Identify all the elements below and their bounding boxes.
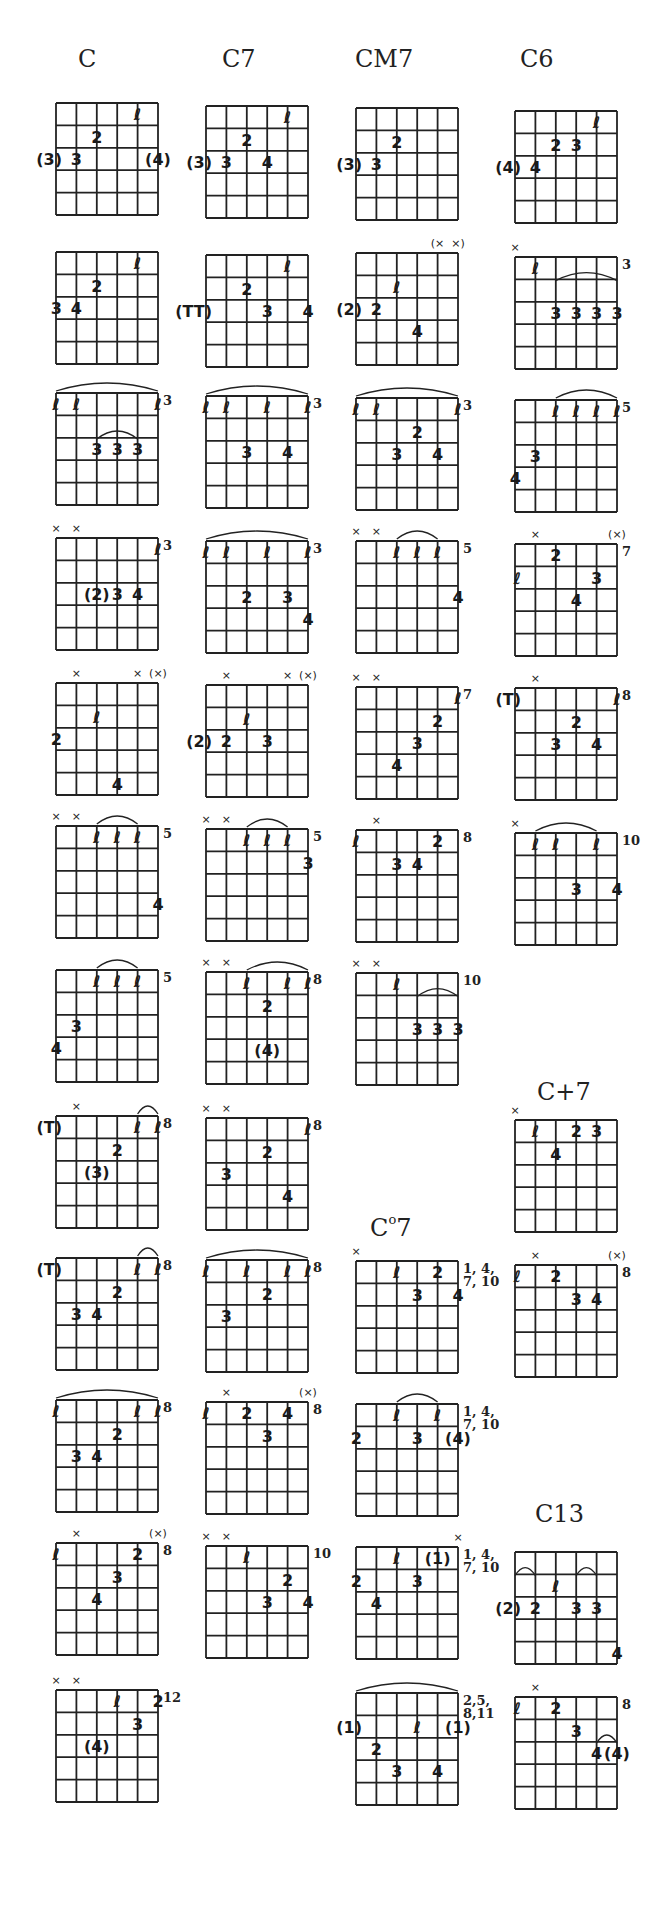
finger-1-icon: ℓ	[51, 1545, 60, 1564]
chord-diagram-c7: ×ℓ234	[515, 1120, 619, 1232]
chord-diagram-cm7: ×ℓ2348	[356, 830, 460, 942]
finger-label: (1)	[336, 1718, 362, 1737]
optional-mute-icon: (×)	[149, 1527, 167, 1540]
finger-label: 4	[132, 585, 143, 604]
fretboard-grid: ××(×)ℓ24	[56, 683, 158, 795]
finger-1-icon: ℓ	[133, 254, 142, 273]
fret-position-label: 10	[622, 833, 640, 848]
fret-position-label: 8	[622, 688, 631, 703]
mute-icon: ×	[133, 667, 142, 680]
barre-arc	[535, 823, 596, 831]
finger-label: 3	[112, 440, 123, 459]
finger-label: 3	[571, 880, 582, 899]
finger-label: 4	[262, 153, 273, 172]
finger-1-icon: ℓ	[592, 113, 601, 132]
finger-1-icon: ℓ	[512, 569, 521, 588]
finger-label: 3	[221, 153, 232, 172]
finger-label: 3	[571, 1599, 582, 1618]
finger-label: 3	[391, 445, 402, 464]
finger-label: 2	[241, 280, 252, 299]
finger-1-icon: ℓ	[531, 835, 540, 854]
finger-1-icon: ℓ	[351, 832, 360, 851]
finger-label: 2	[550, 546, 561, 565]
finger-label: 2	[262, 1285, 273, 1304]
finger-label: 4	[302, 610, 313, 629]
mute-icon: ×	[531, 528, 540, 541]
fret-position-label: 7	[463, 687, 472, 702]
barre-arc	[138, 1248, 158, 1256]
finger-1-icon: ℓ	[303, 1262, 312, 1281]
finger-label: 2	[530, 1599, 541, 1618]
finger-label: 4	[371, 1594, 382, 1613]
finger-1-icon: ℓ	[153, 395, 162, 414]
barre-arc	[138, 1106, 158, 1114]
chord-diagram-c6: ×(×)2ℓ347	[515, 544, 619, 656]
fret-position-label: 7, 10	[463, 1417, 499, 1432]
finger-label: 3	[452, 1020, 463, 1039]
fret-position-label: 8	[163, 1116, 172, 1131]
finger-label: 2	[391, 133, 402, 152]
chord-diagram-c7: ℓℓℓℓ2343	[206, 541, 310, 653]
chord-diagram-cm7: (××)ℓ(2)24	[356, 253, 460, 365]
optional-mute-icon: (×)	[299, 1386, 317, 1399]
mute-icon: ×	[201, 956, 210, 969]
finger-1-icon: ℓ	[412, 543, 421, 562]
fret-position-label: 3	[163, 393, 172, 408]
finger-label: 3	[412, 1572, 423, 1591]
finger-label: 2	[132, 1545, 143, 1564]
finger-label: 3	[530, 447, 541, 466]
fret-position-label: 12	[163, 1690, 181, 1705]
chord-diagram-c7: ℓℓℓℓ343	[206, 396, 310, 508]
mute-icon: ×	[222, 1530, 231, 1543]
finger-label: 4	[91, 1590, 102, 1609]
finger-label: 4	[571, 591, 582, 610]
finger-label: 2	[550, 1267, 561, 1286]
fret-position-label: 3	[313, 541, 322, 556]
fretboard-grid: ×(T)ℓ2348	[515, 688, 617, 800]
mute-icon: ×	[201, 1102, 210, 1115]
finger-label: 3	[132, 440, 143, 459]
finger-1-icon: ℓ	[612, 690, 621, 709]
barre-arc	[247, 819, 288, 827]
fretboard-grid: ××ℓℓℓ45	[56, 826, 158, 938]
finger-1-icon: ℓ	[262, 831, 271, 850]
fretboard-grid: ℓℓℓℓ238	[206, 1260, 308, 1372]
chord-diagram-c: ℓℓℓ345	[56, 970, 160, 1082]
fretboard-grid: ×ℓℓℓ3410	[515, 833, 617, 945]
finger-label: 4	[91, 1305, 102, 1324]
fret-position-label: 10	[463, 973, 481, 988]
chord-diagram-c6: ×(T)ℓ2348	[515, 688, 619, 800]
finger-1-icon: ℓ	[392, 1406, 401, 1425]
chord-diagram-c: ℓℓℓ2348	[56, 1400, 160, 1512]
finger-1-icon: ℓ	[133, 828, 142, 847]
finger-1-icon: ℓ	[453, 400, 462, 419]
fretboard-grid: ℓ2(TT)34	[206, 255, 308, 367]
finger-1-icon: ℓ	[201, 398, 210, 417]
chord-diagram-cm7: ××ℓ2347	[356, 687, 460, 799]
finger-label: 3	[591, 1599, 602, 1618]
finger-label: (4)	[254, 1041, 280, 1060]
fretboard-grid: ℓ23(3)4	[206, 106, 308, 218]
finger-1-icon: ℓ	[262, 543, 271, 562]
fretboard-grid: (T)ℓℓ2348	[56, 1258, 158, 1370]
mute-icon: ×	[201, 1530, 210, 1543]
finger-label: (4)	[145, 150, 171, 169]
finger-1-icon: ℓ	[283, 108, 292, 127]
finger-label: 3	[302, 854, 313, 873]
finger-1-icon: ℓ	[453, 689, 462, 708]
chord-diagram-co7: ×ℓ2341, 4,7, 10	[356, 1261, 460, 1373]
chord-diagram-c7: ××ℓℓℓ35	[206, 829, 310, 941]
fret-position-label: 8,11	[463, 1706, 495, 1721]
mute-icon: ×	[51, 522, 60, 535]
finger-label: 3	[412, 734, 423, 753]
finger-1-icon: ℓ	[551, 402, 560, 421]
finger-1-icon: ℓ	[412, 1718, 421, 1737]
chord-diagram-c: ××ℓℓℓ45	[56, 826, 160, 938]
finger-label: 3	[591, 304, 602, 323]
mute-icon: ×	[531, 672, 540, 685]
finger-1-icon: ℓ	[242, 1548, 251, 1567]
finger-label: 4	[152, 895, 163, 914]
finger-label: 2	[262, 997, 273, 1016]
chord-diagram-c7: ×(×)ℓ2438	[206, 1402, 310, 1514]
mute-icon: ×	[531, 1249, 540, 1262]
